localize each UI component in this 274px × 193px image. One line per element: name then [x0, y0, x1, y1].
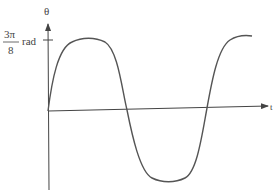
pendulum-angle-diagram: θ t 3π 8 rad [0, 0, 274, 193]
y-axis-label: θ [44, 5, 49, 17]
amplitude-denominator: 8 [8, 44, 14, 56]
x-axis-label: t [270, 102, 273, 112]
amplitude-unit: rad [22, 35, 37, 47]
x-axis [48, 106, 268, 111]
amplitude-numerator: 3π [4, 28, 16, 40]
amplitude-label: 3π 8 rad [3, 28, 37, 56]
